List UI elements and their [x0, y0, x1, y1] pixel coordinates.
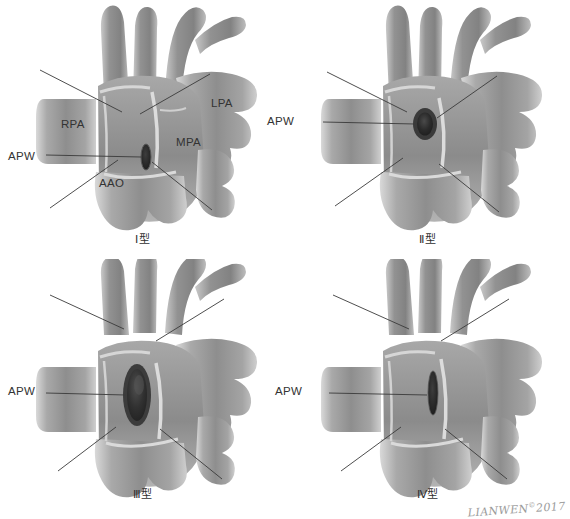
caption-type-3: Ⅲ型 [0, 485, 285, 501]
label-apw-type-4: APW [275, 385, 302, 397]
caption-type-2: Ⅱ型 [285, 230, 570, 246]
label-apw-type-3: APW [8, 385, 35, 397]
caption-type-4: Ⅳ型 [285, 485, 570, 501]
panel-type-2: APW Ⅱ型 [285, 0, 570, 259]
label-apw-type-2: APW [267, 115, 294, 127]
label-rpa-type-1: RPA [61, 118, 85, 130]
panel-type-4: APW Ⅳ型 [285, 259, 570, 518]
caption-type-1: Ⅰ型 [0, 230, 285, 246]
heart-illustration-type-3 [0, 259, 285, 518]
panel-type-3: APW Ⅲ型 [0, 259, 285, 518]
heart-illustration-type-2 [285, 0, 570, 259]
apw-defect-type-4 [428, 371, 438, 415]
apw-defect-type-3 [123, 364, 151, 426]
label-aao-type-1: AAO [99, 177, 124, 189]
label-lpa-type-1: LPA [211, 97, 233, 109]
apw-classification-figure: APW RPA LPA MPA AAO Ⅰ型 [0, 0, 570, 519]
apw-defect-type-1 [141, 144, 151, 170]
label-mpa-type-1: MPA [176, 136, 201, 148]
heart-illustration-type-1 [0, 0, 285, 259]
panel-type-1: APW RPA LPA MPA AAO Ⅰ型 [0, 0, 285, 259]
watermark-year: 2017 [536, 500, 566, 515]
apw-defect-type-2 [413, 108, 437, 140]
label-apw-type-1: APW [8, 150, 35, 162]
heart-illustration-type-4 [285, 259, 570, 518]
